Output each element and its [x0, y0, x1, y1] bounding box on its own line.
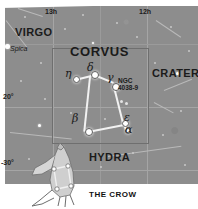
crow-tail [32, 190, 54, 206]
background-star [44, 98, 46, 100]
ra-tick-13h: 13h [45, 8, 57, 15]
background-star [184, 164, 186, 166]
ngc-label-line1: NGC [118, 77, 132, 84]
ngc-4038-9-marker [125, 102, 128, 105]
crow-figure [30, 142, 94, 209]
dso-label-ngc-4038-9: NGC 4038-9 [118, 77, 138, 92]
background-star [64, 28, 66, 30]
star-label-beta: β [72, 113, 78, 124]
star-label-epsilon: ε [124, 112, 130, 123]
star-label-alpha: α [125, 124, 132, 135]
star-label-delta: δ [87, 62, 94, 73]
ngc-4038-9-marker [120, 100, 123, 103]
background-star [24, 16, 26, 18]
crow-star-node [66, 164, 70, 168]
ra-tick-12h: 12h [139, 8, 151, 15]
star-label-spica: Spica [10, 45, 28, 52]
figure-caption: THE CROW [89, 190, 137, 199]
background-star [40, 62, 42, 64]
constellation-label-crater: CRATER [152, 68, 198, 79]
star-chart: 13h 12h 20° -30° VIRGO Spica CRATER HYDR… [0, 0, 198, 209]
background-star [116, 22, 118, 24]
background-star [20, 80, 22, 82]
star-label-eta: η [65, 68, 72, 79]
background-star [188, 50, 190, 52]
background-star [180, 110, 182, 112]
constellation-label-hydra: HYDRA [89, 152, 130, 163]
dec-tick-minus-30: -30° [1, 159, 14, 166]
ngc-label-line2: 4038-9 [118, 84, 138, 91]
background-star [100, 166, 102, 168]
star-beta [85, 128, 93, 136]
page-title: CORVUS [70, 45, 129, 58]
crow-star-node [52, 167, 56, 171]
background-star [38, 124, 41, 127]
dec-tick-minus-20: 20° [3, 93, 14, 100]
crow-star-node [55, 187, 59, 191]
background-star [162, 134, 164, 136]
background-star [82, 14, 84, 16]
background-star [154, 62, 156, 64]
crow-star-node [69, 184, 73, 188]
background-star [136, 36, 138, 38]
star-label-gamma: γ [107, 72, 114, 83]
background-star [132, 152, 134, 154]
constellation-label-virgo: VIRGO [15, 27, 52, 38]
star-eta [73, 76, 80, 83]
background-star [170, 26, 172, 28]
